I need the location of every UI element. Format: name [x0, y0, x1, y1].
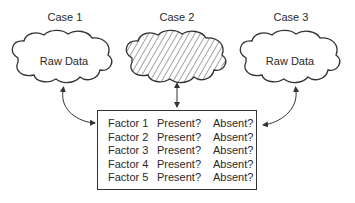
case-2-title: Case 2	[137, 11, 217, 23]
case-3-raw-data-label: Raw Data	[250, 55, 330, 67]
factor-present: Present?	[157, 144, 201, 156]
factor-present: Present?	[157, 158, 201, 170]
cloud-case-2	[126, 30, 225, 82]
factor-absent: Absent?	[213, 171, 253, 183]
factor-name: Factor 3	[108, 144, 148, 156]
arrow-case-1-to-box	[63, 91, 95, 123]
factor-table-box: Factor 1 Present? Absent? Factor 2 Prese…	[97, 110, 257, 190]
case-3-title: Case 3	[251, 11, 331, 23]
factor-name: Factor 2	[108, 131, 148, 143]
factor-absent: Absent?	[213, 158, 253, 170]
arrow-case-3-to-box	[263, 91, 296, 125]
factor-absent: Absent?	[213, 144, 253, 156]
case-1-raw-data-label: Raw Data	[24, 55, 104, 67]
factor-absent: Absent?	[213, 131, 253, 143]
factor-present: Present?	[157, 171, 201, 183]
factor-name: Factor 1	[108, 117, 148, 129]
factor-name: Factor 4	[108, 158, 148, 170]
case-1-title: Case 1	[25, 11, 105, 23]
factor-present: Present?	[157, 117, 201, 129]
factor-row: Factor 5 Present? Absent?	[98, 171, 256, 186]
factor-absent: Absent?	[213, 117, 253, 129]
factor-name: Factor 5	[108, 171, 148, 183]
factor-present: Present?	[157, 131, 201, 143]
